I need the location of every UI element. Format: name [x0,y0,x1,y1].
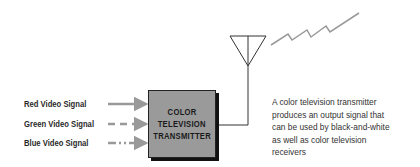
antenna-icon [217,36,266,125]
zigzag-wave-icon [271,13,359,45]
transmitter-line-2: TELEVISION [158,118,206,130]
description-text: A color television transmitter produces … [272,96,404,159]
description-line: A color television transmitter [272,96,404,109]
green-signal-label: Green Video Signal [24,119,94,129]
transmitter-line-1: COLOR [168,106,197,118]
transmitter-line-3: TRANSMITTER [153,130,211,142]
description-line: as well as color television [272,134,404,147]
description-line: receivers [272,146,404,159]
description-line: can be used by black-and-white [272,121,404,134]
blue-signal-label: Blue Video Signal [24,138,88,148]
description-line: produces an output signal that [272,109,404,122]
red-signal-label: Red Video Signal [24,99,86,109]
transmitter-box: COLOR TELEVISION TRANSMITTER [148,90,216,158]
